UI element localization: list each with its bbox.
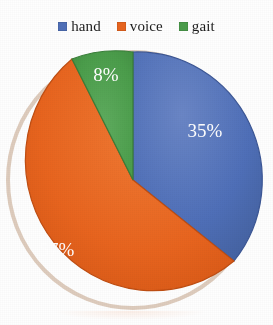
pie-label-gait: 8%	[93, 64, 119, 85]
legend-item-voice[interactable]: voice	[117, 19, 163, 34]
legend-label-hand: hand	[71, 19, 101, 34]
legend-label-voice: voice	[130, 19, 163, 34]
pie-chart: 35% 57% 8%	[0, 40, 273, 315]
pie-label-voice: 57%	[40, 239, 75, 260]
chart-legend: hand voice gait	[0, 14, 273, 38]
pie-label-hand: 35%	[188, 120, 223, 141]
square-swatch-icon	[117, 22, 126, 31]
legend-label-gait: gait	[192, 19, 215, 34]
pie-chart-svg: 35% 57% 8%	[0, 40, 273, 315]
square-swatch-icon	[179, 22, 188, 31]
legend-item-hand[interactable]: hand	[58, 19, 101, 34]
square-swatch-icon	[58, 22, 67, 31]
legend-item-gait[interactable]: gait	[179, 19, 215, 34]
